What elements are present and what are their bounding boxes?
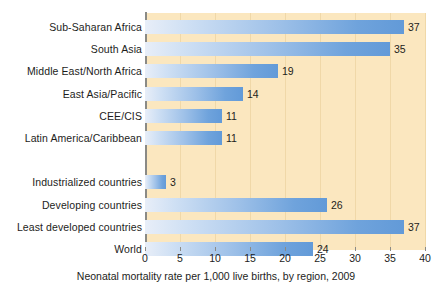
x-tick-label: 5: [177, 251, 183, 265]
bar: [145, 198, 327, 212]
bar: [145, 109, 222, 123]
category-label: East Asia/Pacific: [0, 88, 142, 100]
bar: [145, 64, 278, 78]
bars-layer: 3735191411113263724: [145, 13, 435, 250]
bar-value-label: 11: [226, 109, 237, 123]
x-tick-label: 10: [209, 251, 221, 265]
bar-row: 19: [145, 64, 435, 78]
category-label: Least developed countries: [0, 221, 142, 233]
category-label: Middle East/North Africa: [0, 65, 142, 77]
x-tick-label: 40: [419, 251, 431, 265]
neonatal-mortality-bar-chart: Sub-Saharan AfricaSouth AsiaMiddle East/…: [0, 0, 440, 291]
bar: [145, 131, 222, 145]
bar: [145, 87, 243, 101]
category-label: CEE/CIS: [0, 110, 142, 122]
x-tick-label: 30: [349, 251, 361, 265]
bar-value-label: 37: [408, 220, 420, 234]
bar-value-label: 37: [408, 20, 420, 34]
bar-row: 11: [145, 131, 435, 145]
bar-row: 14: [145, 87, 435, 101]
bar-row: 37: [145, 20, 435, 34]
bar-row: 3: [145, 175, 435, 189]
bar: [145, 220, 404, 234]
bar: [145, 20, 404, 34]
x-axis-tick-labels: 0510152025303540: [145, 251, 425, 267]
bar-row: 26: [145, 198, 435, 212]
category-label: Latin America/Caribbean: [0, 132, 142, 144]
category-label: Developing countries: [0, 199, 142, 211]
category-label: World: [0, 243, 142, 255]
bar-value-label: 3: [170, 175, 176, 189]
bar-value-label: 26: [331, 198, 343, 212]
bar-row: 37: [145, 220, 435, 234]
category-label-column: Sub-Saharan AfricaSouth AsiaMiddle East/…: [0, 13, 142, 250]
x-tick-label: 20: [279, 251, 291, 265]
category-label: South Asia: [0, 43, 142, 55]
bar-value-label: 19: [282, 64, 294, 78]
category-label: Industrialized countries: [0, 176, 142, 188]
bar: [145, 175, 166, 189]
bar-value-label: 35: [394, 42, 406, 56]
x-tick-label: 35: [384, 251, 396, 265]
x-tick-label: 0: [142, 251, 148, 265]
bar-row: 11: [145, 109, 435, 123]
x-tick-label: 25: [314, 251, 326, 265]
bar: [145, 42, 390, 56]
bar-row: 35: [145, 42, 435, 56]
x-axis-title: Neonatal mortality rate per 1,000 live b…: [0, 269, 440, 283]
x-tick-label: 15: [244, 251, 256, 265]
bar-value-label: 14: [247, 87, 259, 101]
bar-value-label: 11: [226, 131, 237, 145]
category-label: Sub-Saharan Africa: [0, 21, 142, 33]
